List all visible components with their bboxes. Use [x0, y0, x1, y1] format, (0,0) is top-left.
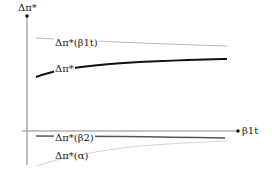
chart-canvas: [0, 0, 278, 177]
series-label-base: Δπ*: [54, 64, 75, 74]
y-axis-label: Δπ*: [17, 3, 38, 13]
series-label-beta1t: Δπ*(β1t): [54, 38, 99, 48]
series-label-beta2: Δπ*(β2): [54, 133, 95, 143]
x-axis-label: β1t: [241, 126, 259, 136]
series-label-alpha: Δπ*(α): [54, 151, 89, 161]
